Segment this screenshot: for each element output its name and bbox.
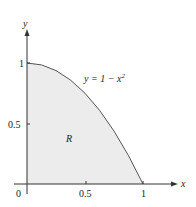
- y-tick-label-0.5: 0.5: [8, 119, 21, 130]
- x-tick-label-0.5: 0.5: [79, 188, 92, 199]
- y-axis-label: y: [22, 18, 28, 29]
- curve-equation-label: y = 1 − x2: [83, 72, 125, 84]
- curve-equation-text: y = 1 − x: [83, 73, 122, 84]
- x-tick-label-1: 1: [141, 188, 146, 199]
- y-tick-label-1: 1: [19, 58, 24, 69]
- x-axis-arrow-icon: [171, 182, 178, 187]
- x-axis-label: x: [180, 178, 186, 189]
- origin-label: 0: [16, 188, 21, 199]
- plot-svg: y x 0 0.5 1 0.5 1 y = 1 − x2 R: [0, 0, 196, 207]
- region-label: R: [65, 133, 72, 144]
- curve-equation-exponent: 2: [121, 72, 125, 80]
- chart-figure: y x 0 0.5 1 0.5 1 y = 1 − x2 R: [0, 0, 196, 207]
- y-axis-arrow-icon: [25, 29, 30, 36]
